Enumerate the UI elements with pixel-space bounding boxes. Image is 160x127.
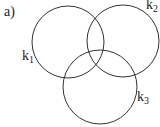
figure-label: a)	[4, 4, 15, 20]
circle-k3	[63, 50, 137, 124]
label-k2: k2	[146, 0, 158, 14]
venn-diagram: a) k1 k2 k3	[0, 0, 160, 127]
label-k3: k3	[137, 89, 149, 106]
circle-k2	[87, 5, 159, 77]
label-k1: k1	[22, 48, 34, 65]
circle-k1	[32, 6, 104, 78]
